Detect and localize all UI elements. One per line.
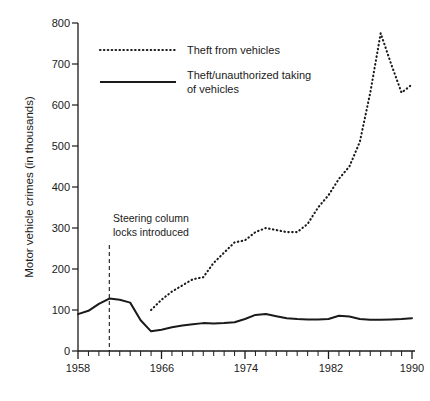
motor-vehicle-crimes-line-chart: Motor vehicle crimes (in thousands) 800 … (0, 0, 430, 401)
y-tick-label: 400 (52, 181, 70, 193)
y-tick-label: 700 (52, 58, 70, 70)
annotation-line-1: Steering column (113, 212, 189, 224)
y-tick-label: 0 (64, 345, 70, 357)
y-tick-label: 100 (52, 304, 70, 316)
y-tick-label: 200 (52, 263, 70, 275)
y-tick-label: 800 (52, 17, 70, 29)
legend-label-theft-from-vehicles: Theft from vehicles (187, 44, 280, 56)
y-tick-label: 500 (52, 140, 70, 152)
x-tick-label: 1990 (400, 362, 424, 374)
legend-label-theft-unauthorized-line1: Theft/unauthorized taking (187, 69, 311, 81)
x-tick-label: 1982 (319, 362, 343, 374)
annotation-line-2: locks introduced (113, 226, 189, 238)
x-tick-label: 1958 (66, 362, 90, 374)
x-tick-label: 1966 (150, 362, 174, 374)
y-axis-title: Motor vehicle crimes (in thousands) (23, 96, 35, 278)
legend-label-theft-unauthorized-line2: of vehicles (187, 83, 239, 95)
y-tick-label: 300 (52, 222, 70, 234)
chart-container: Motor vehicle crimes (in thousands) 800 … (0, 0, 430, 401)
x-tick-label: 1974 (234, 362, 258, 374)
y-tick-label: 600 (52, 99, 70, 111)
y-axis-tick-labels: 800 700 600 500 400 300 200 100 0 (52, 17, 70, 357)
